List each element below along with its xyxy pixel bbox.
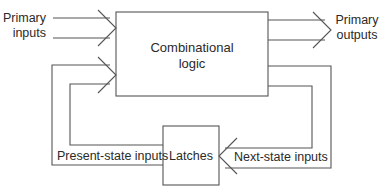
primary-outputs-line2: outputs (331, 28, 383, 42)
primary-inputs-label: Primary inputs (2, 11, 46, 40)
primary-outputs-line1: Primary (331, 13, 383, 27)
present-state-inputs-label: Present-state inputs (57, 149, 168, 163)
primary-inputs-arrow (53, 10, 116, 46)
next-state-inputs-label: Next-state inputs (234, 150, 328, 164)
primary-outputs-label: Primary outputs (331, 13, 383, 42)
combinational-logic-line1: Combinational (116, 41, 268, 55)
diagram-canvas (0, 0, 383, 195)
primary-outputs-arrow (268, 12, 331, 48)
primary-inputs-line1: Primary (2, 11, 46, 25)
primary-inputs-line2: inputs (2, 26, 46, 40)
latches-label: Latches (163, 149, 219, 163)
combinational-logic-line2: logic (116, 57, 268, 71)
combinational-logic-label: Combinational logic (116, 41, 268, 71)
